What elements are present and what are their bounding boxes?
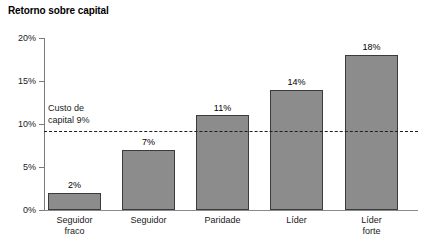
x-label-seguidor: Seguidor bbox=[130, 215, 166, 226]
x-label-paridade-line-1: Paridade bbox=[204, 215, 240, 226]
x-label-paridade: Paridade bbox=[204, 215, 240, 226]
x-label-seguidor-fraco: Seguidor fraco bbox=[56, 215, 92, 237]
bar-value-paridade: 11% bbox=[214, 103, 231, 113]
y-tick-label-10: 10% bbox=[18, 119, 36, 129]
y-tick-label-5: 5% bbox=[23, 162, 36, 172]
y-tick-label-15: 15% bbox=[18, 76, 36, 86]
cost-of-capital-annotation: Custo de capital 9% bbox=[48, 103, 90, 126]
bar-value-seguidor-fraco: 2% bbox=[68, 180, 81, 190]
bar-seguidor bbox=[122, 150, 175, 210]
y-tick-15 bbox=[39, 81, 44, 82]
x-label-lider-forte: Líder forte bbox=[361, 215, 382, 237]
chart-container: Retorno sobre capital 20% 15% 10% 5% 0% bbox=[0, 0, 427, 252]
x-label-seguidor-fraco-line-2: fraco bbox=[56, 226, 92, 237]
y-axis-line bbox=[44, 38, 45, 210]
bar-value-lider: 14% bbox=[287, 77, 305, 87]
cost-of-capital-annotation-line-1: Custo de bbox=[48, 103, 90, 115]
cost-of-capital-reference-line bbox=[44, 131, 418, 132]
x-label-seguidor-line-1: Seguidor bbox=[130, 215, 166, 226]
y-tick-label-20: 20% bbox=[18, 33, 36, 43]
x-label-lider-forte-line-2: forte bbox=[361, 226, 382, 237]
cost-of-capital-annotation-line-2: capital 9% bbox=[48, 115, 90, 127]
bar-value-lider-forte: 18% bbox=[362, 42, 380, 52]
bar-lider bbox=[270, 90, 323, 210]
y-tick-5 bbox=[39, 167, 44, 168]
bar-lider-forte bbox=[345, 55, 398, 210]
x-label-seguidor-fraco-line-1: Seguidor bbox=[56, 215, 92, 226]
y-tick-20 bbox=[39, 38, 44, 39]
x-axis-line bbox=[44, 210, 418, 211]
plot-area: 20% 15% 10% 5% 0% 2% 7% 11% 14% 18% bbox=[0, 0, 427, 252]
y-tick-0 bbox=[39, 210, 44, 211]
bar-seguidor-fraco bbox=[48, 193, 101, 210]
y-tick-10 bbox=[39, 124, 44, 125]
x-label-lider-forte-line-1: Líder bbox=[361, 215, 382, 226]
x-label-lider: Líder bbox=[286, 215, 307, 226]
y-tick-label-0: 0% bbox=[23, 205, 36, 215]
bar-value-seguidor: 7% bbox=[142, 137, 155, 147]
bar-paridade bbox=[196, 115, 249, 210]
x-label-lider-line-1: Líder bbox=[286, 215, 307, 226]
